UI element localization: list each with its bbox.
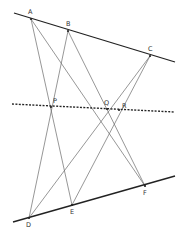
label-f: F bbox=[143, 189, 147, 197]
point-p-marker bbox=[50, 106, 52, 108]
label-b: B bbox=[66, 20, 70, 28]
label-r: R bbox=[122, 102, 127, 110]
pappus-diagram: A B C D E F P Q R bbox=[0, 0, 186, 237]
label-c: C bbox=[148, 45, 153, 53]
point-c-marker bbox=[149, 55, 151, 57]
label-p: P bbox=[53, 97, 57, 105]
label-a: A bbox=[28, 8, 33, 16]
label-q: Q bbox=[104, 99, 109, 107]
segment-ae bbox=[31, 19, 72, 205]
point-b-marker bbox=[67, 30, 69, 32]
point-d-marker bbox=[28, 217, 30, 219]
point-a-marker bbox=[30, 18, 32, 20]
point-f-marker bbox=[144, 185, 146, 187]
segment-ce bbox=[72, 56, 150, 205]
label-d: D bbox=[26, 221, 31, 229]
point-markers bbox=[28, 18, 151, 219]
point-r-marker bbox=[118, 109, 120, 111]
segment-cd bbox=[29, 56, 150, 218]
label-e: E bbox=[70, 208, 74, 216]
segment-af bbox=[31, 19, 145, 186]
bottom-line bbox=[13, 176, 175, 222]
top-line bbox=[14, 13, 175, 62]
point-e-marker bbox=[71, 204, 73, 206]
segment-bd bbox=[29, 31, 68, 218]
point-labels: A B C D E F P Q R bbox=[26, 8, 153, 229]
point-q-marker bbox=[106, 108, 108, 110]
